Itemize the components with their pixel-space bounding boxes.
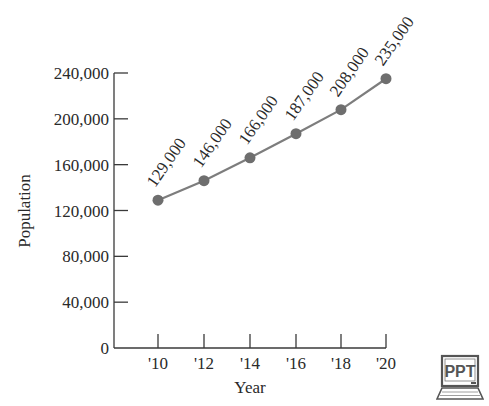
data-point-marker <box>381 73 392 84</box>
x-tick-label: '16 <box>286 354 306 373</box>
population-line-chart: 040,00080,000120,000160,000200,000240,00… <box>0 0 489 406</box>
data-point-marker <box>336 104 347 115</box>
y-tick-label: 0 <box>101 339 110 358</box>
data-point-label: 146,000 <box>189 115 236 171</box>
data-point-label: 187,000 <box>281 68 328 124</box>
ppt-label: PPT <box>444 363 475 380</box>
y-tick-label: 40,000 <box>62 293 109 312</box>
data-series: 129,000146,000166,000187,000208,000235,0… <box>143 13 418 206</box>
data-point-label: 129,000 <box>143 134 190 190</box>
y-tick-label: 240,000 <box>54 64 109 83</box>
x-axis: '10'12'14'16'18'20 <box>114 334 396 373</box>
x-tick-label: '12 <box>194 354 214 373</box>
x-axis-title: Year <box>234 378 266 397</box>
y-axis-title: Population <box>15 174 34 248</box>
ppt-computer-icon: PPT <box>436 354 484 404</box>
y-tick-label: 120,000 <box>54 202 109 221</box>
data-point-marker <box>199 175 210 186</box>
y-axis: 040,00080,000120,000160,000200,000240,00… <box>54 64 128 358</box>
data-point-marker <box>153 195 164 206</box>
x-tick-label: '10 <box>148 354 168 373</box>
x-tick-label: '18 <box>331 354 351 373</box>
y-tick-label: 200,000 <box>54 110 109 129</box>
y-tick-label: 80,000 <box>62 247 109 266</box>
data-point-marker <box>245 152 256 163</box>
x-tick-label: '20 <box>376 354 396 373</box>
x-tick-label: '14 <box>240 354 261 373</box>
data-point-marker <box>291 128 302 139</box>
y-tick-label: 160,000 <box>54 156 109 175</box>
data-point-label: 235,000 <box>371 13 418 69</box>
data-point-label: 166,000 <box>235 92 282 148</box>
